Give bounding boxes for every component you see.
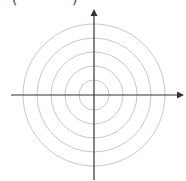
polar-grid-diagram — [0, 0, 186, 181]
arrow-up-icon — [91, 9, 98, 16]
arrow-right-icon — [177, 92, 184, 99]
